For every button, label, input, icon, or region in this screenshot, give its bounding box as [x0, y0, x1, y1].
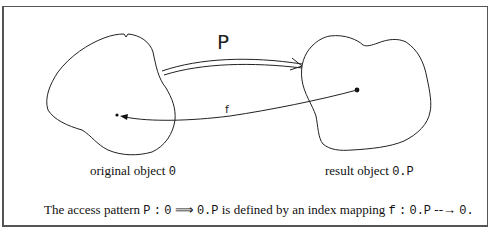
result-object-label-text: result object: [325, 163, 389, 178]
caption-symbol-0p: 0.P: [197, 204, 219, 218]
arrow-label-f: f: [225, 104, 229, 115]
sketch-canvas: [0, 0, 492, 233]
original-object-symbol: 0: [169, 165, 176, 179]
backward-arrow-f: [125, 90, 357, 120]
arrowhead-f: [120, 114, 128, 120]
original-object-label: original object 0: [90, 163, 176, 180]
caption-text-2: is defined by an index mapping: [222, 202, 386, 217]
original-object-blob: [47, 34, 175, 155]
caption: The access pattern P : 0 ⟹ 0.P is define…: [44, 202, 474, 219]
caption-implies-arrow: ⟹: [175, 202, 194, 217]
caption-mapping-arrow: --→: [434, 202, 456, 217]
caption-colon-2: :: [399, 204, 406, 218]
caption-symbol-p: P: [143, 204, 150, 218]
caption-symbol-0-end: 0.: [459, 204, 473, 218]
result-object-label: result object 0.P: [325, 163, 414, 180]
caption-symbol-0: 0: [164, 204, 171, 218]
caption-colon-1: :: [154, 204, 161, 218]
result-object-blob: [301, 36, 430, 151]
original-object-point: [115, 113, 118, 116]
forward-arrow-p: [162, 58, 302, 75]
caption-text-1: The access pattern: [44, 202, 140, 217]
caption-symbol-0p-2: 0.P: [409, 204, 431, 218]
result-object-symbol: 0.P: [392, 165, 414, 179]
arrow-label-p: P: [217, 32, 229, 52]
caption-symbol-f: f: [389, 204, 396, 218]
original-object-label-text: original object: [90, 163, 165, 178]
